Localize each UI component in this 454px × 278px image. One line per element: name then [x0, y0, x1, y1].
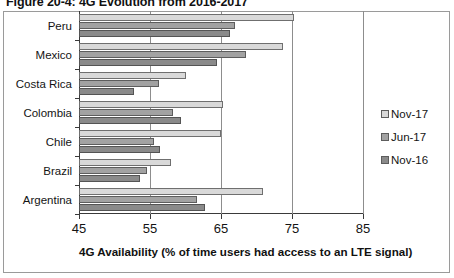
category-label-costa-rica: Costa Rica [16, 78, 72, 90]
figure-title: Figure 20-4: 4G Evolution from 2016-2017 [6, 0, 248, 9]
bar-mexico-nov-16[interactable] [79, 59, 217, 67]
gridline-85 [363, 11, 364, 214]
legend-label: Nov-17 [391, 108, 428, 120]
bar-chile-nov-16[interactable] [79, 146, 160, 154]
bar-group: Chile [79, 127, 363, 156]
bar-peru-nov-17[interactable] [79, 14, 294, 22]
bar-costa-rica-nov-16[interactable] [79, 88, 134, 96]
category-label-brazil: Brazil [43, 165, 72, 177]
legend-swatch-icon-nov-17 [381, 110, 389, 118]
bar-costa-rica-jun-17[interactable] [79, 80, 159, 88]
bar-argentina-jun-17[interactable] [79, 196, 197, 204]
legend-item-nov-16[interactable]: Nov-16 [381, 154, 428, 166]
bar-costa-rica-nov-17[interactable] [79, 72, 186, 80]
bar-peru-jun-17[interactable] [79, 22, 235, 30]
bar-chile-nov-17[interactable] [79, 130, 221, 138]
legend-swatch-icon-nov-16 [381, 156, 389, 164]
bar-group: Peru [79, 11, 363, 40]
x-tick-45 [79, 214, 80, 219]
bar-group: Colombia [79, 98, 363, 127]
legend-swatch-icon-jun-17 [381, 133, 389, 141]
x-tick-label-75: 75 [285, 221, 299, 236]
x-tick-75 [292, 214, 293, 219]
bar-colombia-nov-17[interactable] [79, 101, 223, 109]
category-label-chile: Chile [46, 136, 72, 148]
plot-area: PeruMexicoCosta RicaColombiaChileBrazilA… [79, 11, 363, 214]
bar-brazil-nov-16[interactable] [79, 175, 140, 183]
x-tick-label-55: 55 [143, 221, 157, 236]
x-tick-65 [221, 214, 222, 219]
x-tick-label-65: 65 [214, 221, 228, 236]
bar-group: Costa Rica [79, 69, 363, 98]
legend-item-nov-17[interactable]: Nov-17 [381, 108, 428, 120]
bar-colombia-jun-17[interactable] [79, 109, 173, 117]
x-axis-title: 4G Availability (% of time users had acc… [79, 245, 363, 258]
x-tick-55 [150, 214, 151, 219]
legend-label: Jun-17 [391, 131, 426, 143]
bar-mexico-jun-17[interactable] [79, 51, 246, 59]
x-tick-85 [363, 214, 364, 219]
bar-group: Argentina [79, 185, 363, 214]
legend-label: Nov-16 [391, 154, 428, 166]
legend-item-jun-17[interactable]: Jun-17 [381, 131, 428, 143]
bar-colombia-nov-16[interactable] [79, 117, 181, 125]
bar-brazil-jun-17[interactable] [79, 167, 147, 175]
category-label-colombia: Colombia [23, 107, 72, 119]
bar-argentina-nov-17[interactable] [79, 188, 263, 196]
chart-legend: Nov-17Jun-17Nov-16 [381, 108, 428, 177]
bar-argentina-nov-16[interactable] [79, 204, 205, 212]
category-label-peru: Peru [48, 20, 72, 32]
bar-brazil-nov-17[interactable] [79, 159, 171, 167]
bar-chile-jun-17[interactable] [79, 138, 154, 146]
bar-group: Brazil [79, 156, 363, 185]
bar-mexico-nov-17[interactable] [79, 43, 283, 51]
x-tick-label-45: 45 [72, 221, 86, 236]
bar-peru-nov-16[interactable] [79, 30, 230, 38]
x-tick-label-85: 85 [356, 221, 370, 236]
bar-group: Mexico [79, 40, 363, 69]
category-label-mexico: Mexico [36, 49, 72, 61]
category-label-argentina: Argentina [23, 194, 72, 206]
